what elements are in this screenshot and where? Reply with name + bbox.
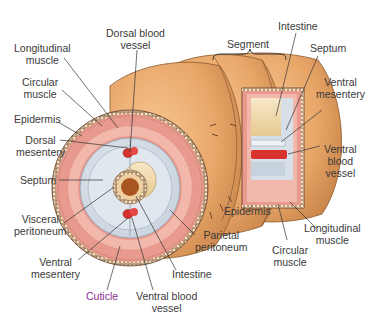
label-septum-left: Septum [20, 174, 56, 186]
label-line: muscle [22, 88, 58, 100]
label-intestine-top: Intestine [278, 20, 318, 32]
label-line: Ventral blood [136, 290, 197, 302]
label-line: muscle [304, 234, 361, 246]
label-cuticle: Cuticle [86, 290, 118, 302]
label-ventral-blood-vessel-bottom: Ventral blood vessel [136, 290, 197, 314]
label-ventral-mesentery-right: Ventral mesentery [316, 76, 365, 100]
label-line: peritoneum [14, 225, 67, 237]
label-intestine-bottom: Intestine [172, 268, 212, 280]
label-line: Longitudinal [14, 42, 71, 54]
cut-face-right [242, 88, 304, 208]
label-line: Ventral [316, 76, 365, 88]
label-line: Ventral [324, 143, 357, 155]
label-parietal-peritoneum: Parietal peritoneum [195, 229, 248, 253]
label-line: Longitudinal [304, 222, 361, 234]
label-epidermis-left: Epidermis [14, 113, 61, 125]
label-line: Ventral [31, 256, 80, 268]
label-line: vessel [324, 167, 357, 179]
label-longitudinal-muscle-left: Longitudinal muscle [14, 42, 71, 66]
label-ventral-mesentery-left: Ventral mesentery [31, 256, 80, 280]
label-line: blood [324, 155, 357, 167]
label-line: Circular [272, 244, 308, 256]
label-line: Parietal [195, 229, 248, 241]
label-dorsal-mesentery: Dorsal mesentery [16, 134, 65, 158]
label-line: Visceral [14, 213, 67, 225]
label-line: muscle [272, 256, 308, 268]
cross-section-front [52, 110, 208, 266]
label-dorsal-blood-vessel: Dorsal blood vessel [106, 27, 165, 51]
earthworm-cross-section-diagram: Longitudinal muscle Circular muscle Epid… [0, 0, 380, 321]
label-line: mesentery [31, 268, 80, 280]
label-line: Dorsal [16, 134, 65, 146]
label-circular-muscle-left: Circular muscle [22, 76, 58, 100]
label-line: muscle [14, 54, 71, 66]
label-circular-muscle-right: Circular muscle [272, 244, 308, 268]
label-ventral-blood-vessel-right: Ventral blood vessel [324, 143, 357, 179]
label-line: mesentery [16, 146, 65, 158]
label-line: Dorsal blood [106, 27, 165, 39]
label-epidermis-right: Epidermis [224, 205, 271, 217]
label-visceral-peritoneum: Visceral peritoneum [14, 213, 67, 237]
label-segment: Segment [227, 38, 269, 50]
label-line: Circular [22, 76, 58, 88]
label-line: vessel [136, 302, 197, 314]
label-longitudinal-muscle-right: Longitudinal muscle [304, 222, 361, 246]
label-line: vessel [106, 39, 165, 51]
label-line: mesentery [316, 88, 365, 100]
label-septum-right: Septum [310, 42, 346, 54]
label-line: peritoneum [195, 241, 248, 253]
